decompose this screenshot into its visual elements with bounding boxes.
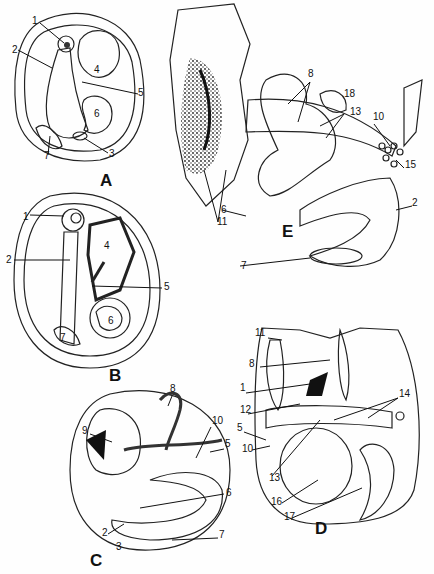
figure-drawing: A1234567B124567C235678910D15810111213141… (0, 0, 434, 574)
part-label: 6 (94, 108, 100, 119)
part-label: 10 (373, 111, 385, 122)
part-label: 2 (12, 44, 18, 55)
panel-a (15, 13, 144, 160)
part-label: 6 (221, 204, 227, 215)
part-label: 18 (344, 88, 356, 99)
part-label: 6 (226, 487, 232, 498)
panel-d (244, 328, 419, 524)
part-label: 1 (23, 211, 29, 222)
part-label: 13 (350, 106, 362, 117)
part-label: 17 (284, 511, 296, 522)
part-label: 2 (102, 527, 108, 538)
part-label: 3 (116, 541, 122, 552)
part-label: 2 (412, 197, 418, 208)
part-label: 4 (94, 64, 100, 75)
panel-label-d: D (315, 519, 327, 538)
part-label: 13 (269, 472, 281, 483)
part-label: 16 (271, 496, 283, 507)
part-label: 2 (6, 254, 12, 265)
part-label: 5 (237, 422, 243, 433)
part-label: 14 (399, 388, 411, 399)
part-label: 7 (219, 529, 225, 540)
part-label: 12 (240, 404, 252, 415)
part-label: 3 (109, 148, 115, 159)
panel-label-c: C (90, 551, 102, 570)
part-label: 8 (249, 358, 255, 369)
part-label: 8 (308, 68, 314, 79)
part-label: 5 (225, 438, 231, 449)
part-label: 6 (108, 315, 114, 326)
panel-e (170, 4, 422, 266)
part-label: 7 (44, 150, 50, 161)
part-label: 5 (138, 87, 144, 98)
part-label: 15 (405, 159, 417, 170)
part-label: 7 (60, 332, 66, 343)
part-label: 7 (241, 260, 247, 271)
part-label: 10 (242, 443, 254, 454)
anatomical-figure: A1234567B124567C235678910D15810111213141… (0, 0, 434, 574)
part-label: 11 (255, 327, 266, 338)
part-label: 1 (32, 15, 38, 26)
panel-label-b: B (109, 366, 121, 385)
panel-c (70, 391, 230, 550)
part-label: 10 (212, 415, 224, 426)
panel-label-a: A (100, 171, 112, 190)
panel-b (14, 193, 162, 368)
panel-label-e: E (282, 222, 293, 241)
part-label: 8 (170, 383, 176, 394)
part-label: 1 (240, 382, 246, 393)
part-label: 11 (217, 216, 228, 227)
part-label: 4 (104, 240, 110, 251)
part-label: 9 (82, 425, 88, 436)
part-label: 5 (164, 281, 170, 292)
